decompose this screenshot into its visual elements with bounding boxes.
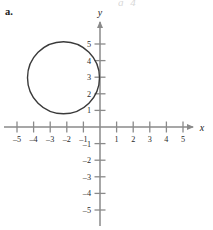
y-tick-label: 5 <box>87 40 91 49</box>
x-axis-tick-labels: –5 –4 –3 –2 –1 1 2 3 4 5 <box>12 135 185 144</box>
y-tick-label: –1 <box>82 140 91 149</box>
x-tick-label: 4 <box>164 135 168 144</box>
coordinate-plane: –5 –4 –3 –2 –1 1 2 3 4 5 5 4 <box>0 0 213 230</box>
y-tick-label: 2 <box>87 90 91 99</box>
x-tick-label: 3 <box>148 135 152 144</box>
x-tick-label: 5 <box>181 135 185 144</box>
y-tick-label: 3 <box>87 73 91 82</box>
x-tick-label: –4 <box>29 135 38 144</box>
y-tick-label: 1 <box>87 106 91 115</box>
x-tick-label: 2 <box>131 135 135 144</box>
y-axis-label: y <box>97 7 103 18</box>
y-tick-label: –2 <box>82 156 91 165</box>
axis-lines <box>4 22 193 226</box>
y-tick-label: –3 <box>82 173 91 182</box>
x-tick-label: –2 <box>62 135 71 144</box>
y-tick-label: –5 <box>82 206 91 215</box>
x-tick-label: –3 <box>45 135 54 144</box>
x-tick-label: 1 <box>115 135 119 144</box>
y-tick-label: –4 <box>82 189 91 198</box>
x-tick-label: –5 <box>12 135 21 144</box>
figure-panel: g 4 a. –5 –4 – <box>0 0 213 230</box>
x-axis-label: x <box>199 122 205 133</box>
y-tick-label: 4 <box>87 57 91 66</box>
